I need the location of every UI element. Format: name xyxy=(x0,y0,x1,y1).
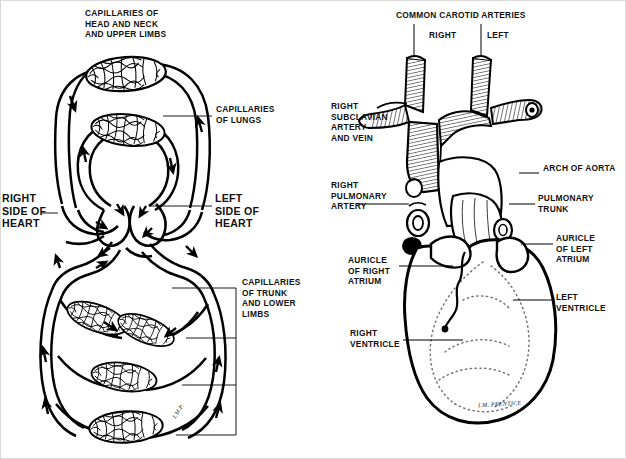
label-carotid-right: RIGHT xyxy=(429,30,456,41)
heart-body-outline xyxy=(405,240,556,423)
label-right-ventricle: RIGHT VENTRICLE xyxy=(350,328,400,349)
circulation-schematic-drawing xyxy=(0,0,313,459)
capillary-bed-lower-limbs-middle xyxy=(90,359,159,396)
common-carotid-arteries xyxy=(405,56,491,116)
label-right-pulmonary-artery: RIGHT PULMONARY ARTERY xyxy=(331,180,387,212)
label-pulmonary-trunk: PULMONARY TRUNK xyxy=(538,193,594,214)
label-capillaries-of-lungs: CAPILLARIES OF LUNGS xyxy=(216,104,275,125)
flow-arrow xyxy=(83,148,86,162)
label-carotid-left: LEFT xyxy=(487,30,509,41)
figure-canvas: CAPILLARIES OF HEAD AND NECK AND UPPER L… xyxy=(0,0,626,459)
flow-arrow xyxy=(140,206,146,216)
label-common-carotid-arteries: COMMON CAROTID ARTERIES xyxy=(396,10,526,21)
label-left-side-of-heart: LEFT SIDE OF HEART xyxy=(215,192,259,230)
capillary-bed-trunk-lower xyxy=(114,307,178,353)
label-capillaries-head-neck-upper-limbs: CAPILLARIES OF HEAD AND NECK AND UPPER L… xyxy=(85,8,166,40)
flow-arrow xyxy=(198,118,202,132)
label-arch-of-aorta: ARCH OF AORTA xyxy=(543,163,616,174)
label-capillaries-of-trunk-and-lower-limbs: CAPILLARIES OF TRUNK AND LOWER LIMBS xyxy=(242,277,301,319)
capillary-bed-head-neck-upper-limbs xyxy=(85,54,167,93)
flow-arrow xyxy=(56,256,60,268)
label-auricle-of-right-atrium: AURICLE OF RIGHT ATRIUM xyxy=(348,255,390,287)
label-left-ventricle: LEFT VENTRICLE xyxy=(556,292,606,313)
flow-arrow xyxy=(43,348,46,362)
capillary-bed-lungs xyxy=(90,111,166,150)
auricle-of-left-atrium xyxy=(497,238,528,272)
label-right-subclavian-artery-and-vein: RIGHT SUBCLAVIAN ARTERY AND VEIN xyxy=(331,101,388,143)
capillary-bed-lower-limbs-lower xyxy=(88,409,163,444)
flow-arrow xyxy=(186,246,196,256)
flow-arrow xyxy=(117,204,123,214)
heart-anatomy-drawing xyxy=(313,0,626,459)
label-auricle-of-left-atrium: AURICLE OF LEFT ATRIUM xyxy=(556,233,595,265)
flow-arrow xyxy=(170,158,173,172)
flow-arrow xyxy=(216,358,219,372)
label-right-side-of-heart: RIGHT SIDE OF HEART xyxy=(2,192,46,230)
flow-arrow xyxy=(99,248,110,256)
